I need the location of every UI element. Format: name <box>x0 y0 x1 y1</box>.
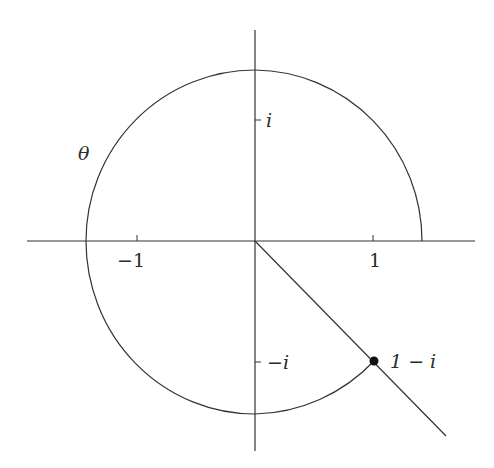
complex-plane-diagram: θ i −i −1 1 1 − i <box>0 0 494 468</box>
point-1-minus-i <box>370 357 379 366</box>
neg-one-label: −1 <box>117 249 145 271</box>
neg-i-label: −i <box>267 351 289 373</box>
diagram-canvas: θ i −i −1 1 1 − i <box>0 0 494 468</box>
i-label: i <box>266 109 272 131</box>
one-label: 1 <box>369 249 381 271</box>
ray-through-1-minus-i <box>255 241 446 436</box>
point-label: 1 − i <box>390 350 436 372</box>
theta-label: θ <box>78 142 90 164</box>
